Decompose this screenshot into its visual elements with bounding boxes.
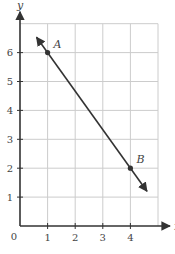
y-tick-label: 5 (7, 76, 13, 87)
point-label-b: B (135, 153, 144, 166)
x-axis-label: x (174, 220, 175, 233)
point-a (45, 50, 50, 55)
y-tick-label: 6 (7, 47, 13, 58)
x-tick-label: 3 (100, 232, 106, 243)
grid-lines (20, 24, 158, 226)
y-tick-label: 2 (7, 163, 13, 174)
y-tick-label: 4 (7, 105, 13, 116)
points: AB (45, 38, 144, 171)
y-tick-label: 1 (7, 192, 13, 203)
coordinate-plane: xy0 1234123456 AB (0, 0, 175, 254)
x-tick-label: 1 (44, 232, 50, 243)
axes: xy0 (11, 0, 175, 242)
y-axis-label: y (16, 0, 24, 12)
x-tick-label: 2 (72, 232, 78, 243)
x-tick-label: 4 (127, 232, 133, 243)
point-b (128, 166, 133, 171)
origin-label: 0 (11, 231, 17, 242)
y-tick-label: 3 (7, 134, 13, 145)
point-label-a: A (53, 38, 62, 51)
